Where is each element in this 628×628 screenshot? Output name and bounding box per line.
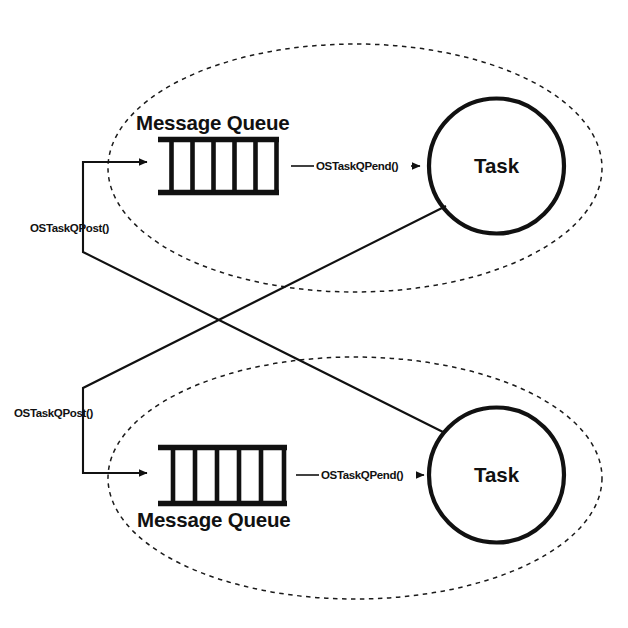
lower-pend-connector: OSTaskQPend() <box>296 469 424 481</box>
post-path-lower <box>83 206 446 473</box>
diagram-canvas: Message Queue Task OSTaskQPend() <box>0 0 628 628</box>
upper-task-label: Task <box>474 154 520 177</box>
upper-pend-label: OSTaskQPend() <box>316 160 399 172</box>
upper-pend-connector: OSTaskQPend() <box>291 160 420 172</box>
upper-post-label: OSTaskQPost() <box>30 222 109 234</box>
lower-task-to-upper-queue-post-path: OSTaskQPost() <box>30 162 443 432</box>
upper-queue-label: Message Queue <box>136 111 290 134</box>
message-queue-task-diagram: Message Queue Task OSTaskQPend() <box>0 0 628 628</box>
upper-task-to-lower-queue-post-path: OSTaskQPost() <box>14 206 446 473</box>
lower-message-queue <box>158 447 287 504</box>
lower-post-label: OSTaskQPost() <box>14 407 93 419</box>
upper-message-queue <box>158 139 279 193</box>
lower-group: Message Queue Task OSTaskQPend() <box>108 357 602 599</box>
lower-queue-label: Message Queue <box>137 508 291 531</box>
lower-task-label: Task <box>474 463 520 486</box>
upper-group: Message Queue Task OSTaskQPend() <box>108 44 602 292</box>
lower-pend-label: OSTaskQPend() <box>321 469 404 481</box>
